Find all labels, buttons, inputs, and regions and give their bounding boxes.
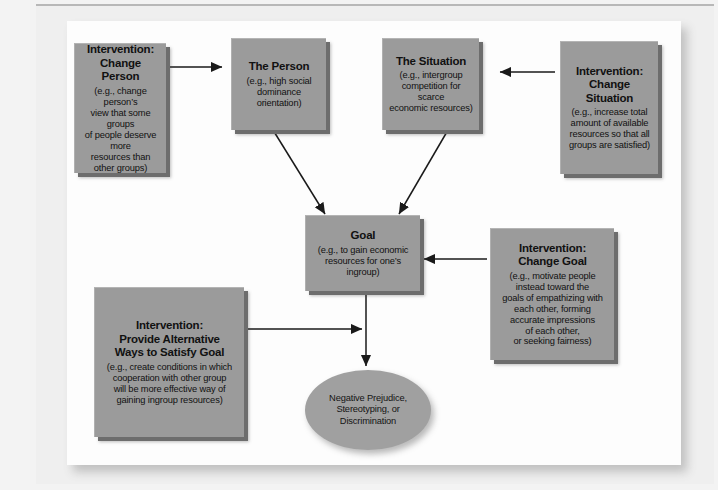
node-heading: The Situation: [396, 55, 466, 69]
node-intervention-provide-alternative[interactable]: Intervention: Provide Alternative Ways t…: [94, 287, 244, 437]
figure-screenshot: Intervention: Change Person (e.g., chang…: [0, 0, 718, 490]
node-heading: Intervention: Provide Alternative Ways t…: [115, 319, 224, 360]
node-heading: Intervention: Change Goal: [518, 242, 587, 269]
node-intervention-change-person[interactable]: Intervention: Change Person (e.g., chang…: [74, 43, 166, 173]
node-detail: (e.g., create conditions in which cooper…: [107, 362, 232, 406]
node-heading: The Person: [249, 60, 310, 74]
node-heading: Intervention: Change Situation: [566, 65, 653, 106]
node-goal[interactable]: Goal (e.g., to gain economic resources f…: [305, 215, 420, 291]
node-outcome-ellipse[interactable]: Negative Prejudice, Stereotyping, or Dis…: [305, 370, 431, 450]
node-intervention-change-situation[interactable]: Intervention: Change Situation (e.g., in…: [560, 41, 658, 174]
node-detail: (e.g., change person’s view that some gr…: [80, 86, 161, 174]
node-detail: (e.g., increase total amount of availabl…: [569, 107, 650, 151]
node-detail: (e.g., high social dominance orientation…: [237, 76, 321, 109]
node-heading: Goal: [351, 229, 376, 243]
node-detail: (e.g., motivate people instead toward th…: [502, 271, 603, 348]
node-heading: Intervention: Change Person: [80, 43, 161, 84]
node-intervention-change-goal[interactable]: Intervention: Change Goal (e.g., motivat…: [490, 228, 614, 360]
node-detail: (e.g., intergroup competition for scarce…: [388, 70, 474, 114]
node-detail: (e.g., to gain economic resources for on…: [318, 245, 409, 278]
outcome-label: Negative Prejudice, Stereotyping, or Dis…: [329, 393, 407, 428]
node-the-situation[interactable]: The Situation (e.g., intergroup competit…: [382, 38, 479, 130]
node-the-person[interactable]: The Person (e.g., high social dominance …: [231, 38, 326, 130]
